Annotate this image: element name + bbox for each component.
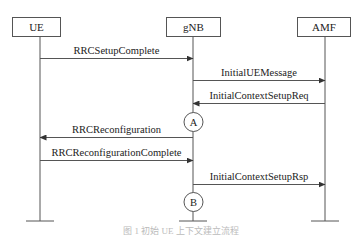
sequence-diagram: UEgNBAMF RRCSetupCompleteInitialUEMessag… <box>0 0 362 235</box>
message-label: InitialUEMessage <box>221 67 297 78</box>
message-label: RRCReconfigurationComplete <box>51 147 181 158</box>
message-label: RRCSetupComplete <box>74 45 160 56</box>
message-rrcreconfigurationcomplete: RRCReconfigurationComplete <box>40 147 193 161</box>
marker-label: A <box>190 117 198 128</box>
entity-ue: UE <box>13 18 61 37</box>
entity-label: gNB <box>183 21 204 33</box>
entity-gnb: gNB <box>167 18 221 37</box>
marker-label: B <box>190 197 197 208</box>
message-initialuemessage: InitialUEMessage <box>193 67 325 81</box>
marker-a: A <box>184 113 203 132</box>
message-initialcontextsetupreq: InitialContextSetupReq <box>193 90 325 104</box>
message-initialcontextsetuprsp: InitialContextSetupRsp <box>193 171 325 185</box>
message-label: InitialContextSetupReq <box>209 90 309 101</box>
message-label: RRCReconfiguration <box>72 124 162 135</box>
marker-b: B <box>184 193 203 212</box>
message-rrcsetupcomplete: RRCSetupComplete <box>40 45 193 59</box>
figure-caption: 图 1 初始 UE 上下文建立流程 <box>123 225 239 235</box>
entity-label: UE <box>29 21 44 33</box>
entity-label: AMF <box>312 21 336 33</box>
entity-amf: AMF <box>298 18 351 37</box>
message-label: InitialContextSetupRsp <box>210 171 309 182</box>
message-rrcreconfiguration: RRCReconfiguration <box>40 124 193 138</box>
